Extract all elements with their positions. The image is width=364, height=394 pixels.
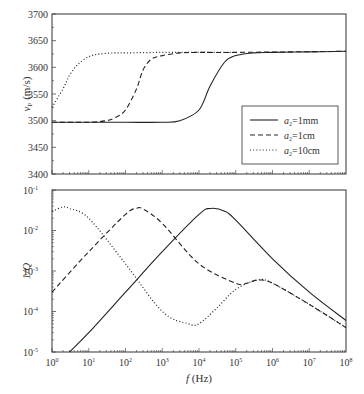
y-tick-label: 3600: [28, 62, 48, 73]
top-x-ticks: [52, 170, 344, 174]
y-tick-label: 3400: [28, 169, 48, 180]
bottom-y-axis-title: 1/Q: [20, 263, 32, 280]
x-tick-label: 107: [303, 357, 316, 368]
top-y-axis-title: vP (m/s): [20, 76, 34, 111]
y-tick-label: 10-5: [23, 347, 38, 358]
curve-dashed: [52, 207, 346, 327]
y-tick-label: 3450: [28, 142, 48, 153]
top-panel: 3400345035003550360036503700 vP (m/s) a2…: [20, 9, 346, 180]
x-axis-title: f (Hz): [186, 372, 212, 385]
bottom-panel: 10-510-410-310-210-1 1001011021031041051…: [20, 185, 353, 386]
legend: a2=1mma2=1cma2=10cm: [242, 106, 338, 164]
x-tick-label: 104: [193, 357, 206, 368]
y-tick-label: 10-1: [23, 185, 38, 196]
x-tick-label: 108: [340, 357, 353, 368]
bottom-x-ticks: 100101102103104105106107108: [46, 348, 353, 368]
y-tick-label: 10-4: [23, 306, 38, 317]
y-tick-label: 3700: [28, 9, 48, 20]
x-tick-label: 105: [229, 357, 242, 368]
y-tick-label: 3650: [28, 35, 48, 46]
x-tick-label: 101: [82, 357, 95, 368]
x-tick-label: 106: [266, 357, 279, 368]
y-tick-label: 3500: [28, 115, 48, 126]
curve-solid: [70, 208, 347, 352]
legend-label: a2=1cm: [284, 130, 315, 142]
x-tick-label: 100: [46, 357, 59, 368]
curve-dotted: [52, 52, 236, 107]
curve-dotted: [52, 207, 346, 328]
x-tick-label: 102: [119, 357, 132, 368]
chart-figure: 3400345035003550360036503700 vP (m/s) a2…: [0, 0, 364, 394]
x-tick-label: 103: [156, 357, 169, 368]
y-tick-label: 10-2: [23, 225, 38, 236]
bottom-curves: [52, 207, 346, 352]
